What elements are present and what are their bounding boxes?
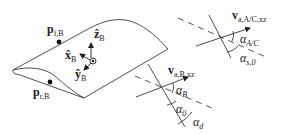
front-point-marker: [57, 40, 62, 45]
label-v-wing-AC: va,A/C,xz: [232, 9, 266, 21]
label-v-wing-B: va,B,xz: [168, 64, 194, 76]
label-alpha-0: α0: [176, 103, 186, 115]
label-x-body: x̂B: [65, 49, 76, 61]
label-alpha-d: αd: [193, 116, 203, 128]
body-frame-axes: [80, 43, 96, 70]
label-alpha-s0: αs,0: [240, 52, 255, 64]
label-y-body: ŷB: [75, 68, 86, 80]
label-alpha-B: αB: [176, 84, 187, 96]
label-alpha-AC: αA/C: [240, 33, 259, 45]
label-z-body: ẑB: [94, 28, 105, 40]
wing-diagram: pf,B pr,B ẑB x̂B ŷB va,B,xz αB α0 αd va,…: [0, 0, 283, 134]
rear-point-marker: [48, 80, 53, 85]
label-p-front: pf,B: [47, 23, 64, 35]
label-p-rear: pr,B: [33, 86, 49, 98]
